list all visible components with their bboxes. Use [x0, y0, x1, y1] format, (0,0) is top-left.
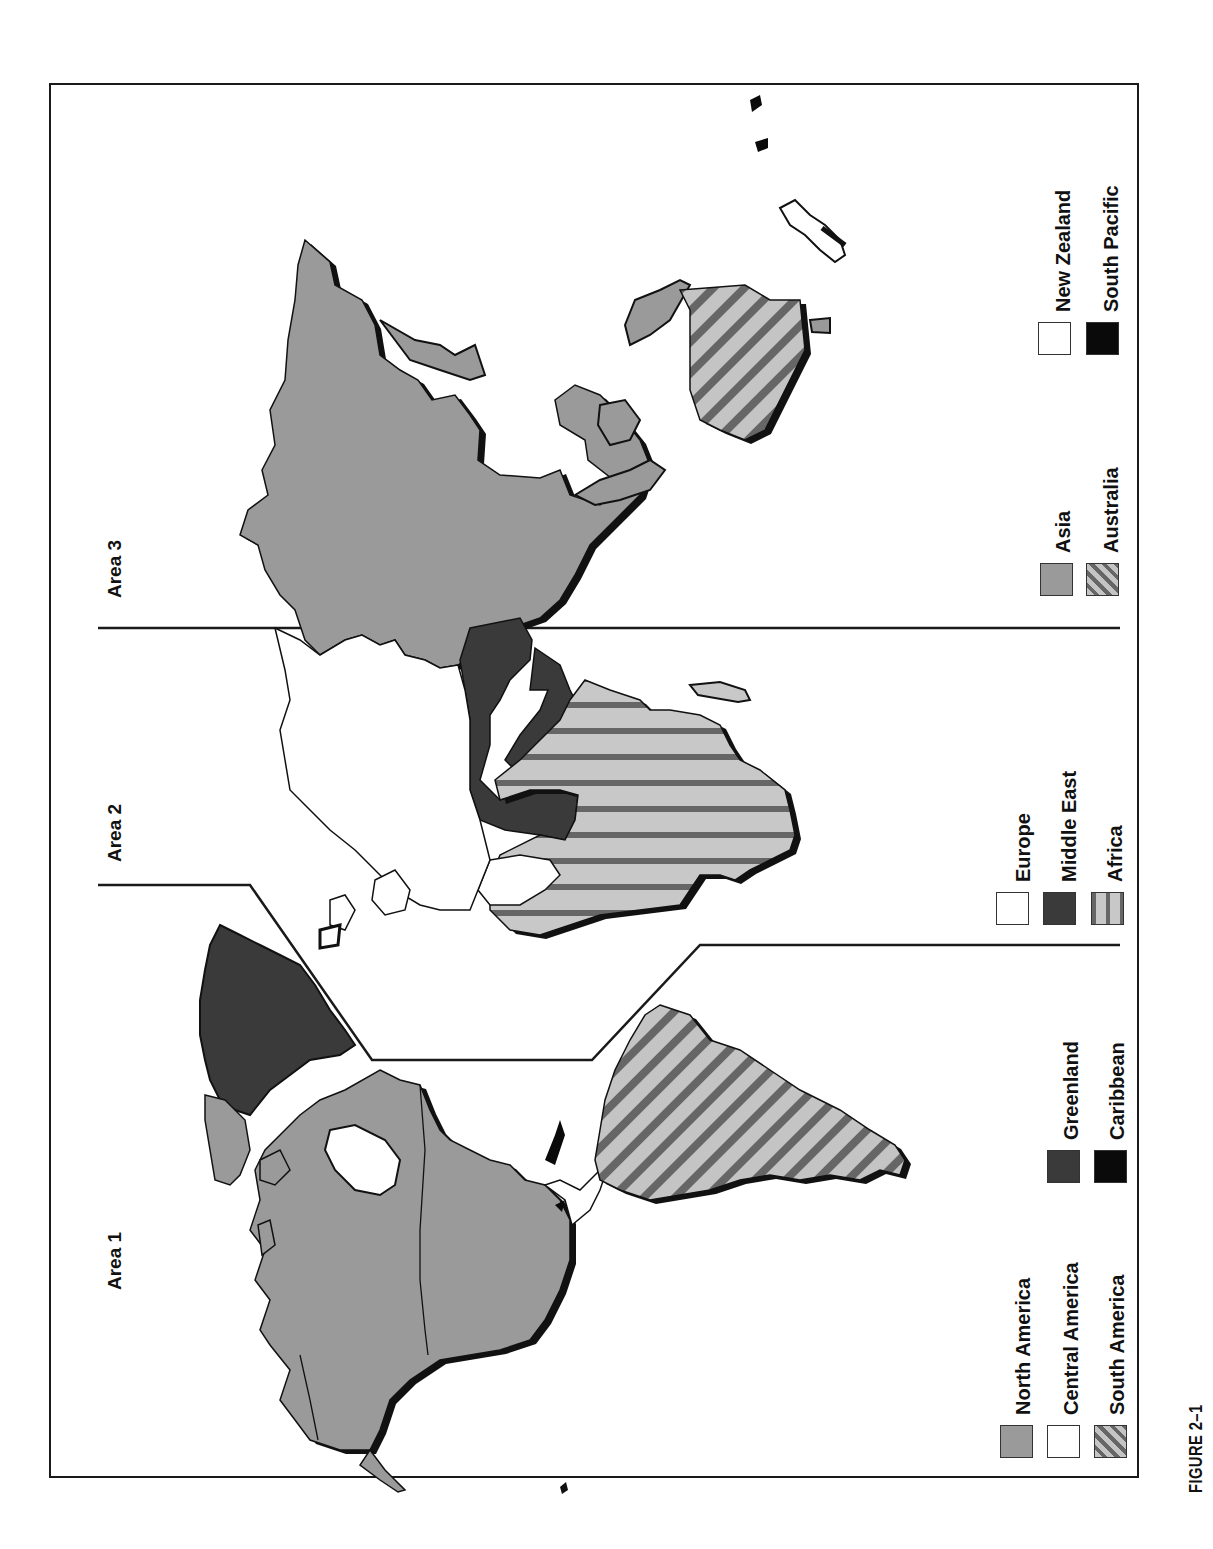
area-label-3: Area 3 — [104, 540, 126, 598]
legend-label-asia: Asia — [1052, 511, 1075, 553]
area-label-1: Area 1 — [104, 1232, 126, 1290]
legend-swatch-caribbean — [1094, 1150, 1127, 1183]
region-australia — [680, 285, 811, 444]
legend-swatch-north-america — [1000, 1425, 1033, 1458]
region-greenland — [200, 925, 355, 1115]
region-new-zealand — [780, 200, 845, 262]
legend-label-africa: Africa — [1104, 825, 1127, 882]
legend-swatch-middle-east — [1043, 892, 1076, 925]
legend-label-middle-east: Middle East — [1058, 771, 1081, 882]
legend-label-north-america: North America — [1012, 1278, 1035, 1415]
legend-swatch-south-pacific — [1086, 322, 1119, 355]
legend-swatch-new-zealand — [1038, 322, 1071, 355]
region-south-america — [595, 1005, 911, 1204]
legend-label-europe: Europe — [1012, 813, 1035, 882]
legend-label-caribbean: Caribbean — [1106, 1042, 1129, 1140]
legend-label-greenland: Greenland — [1060, 1041, 1083, 1140]
legend-swatch-central-america — [1047, 1425, 1080, 1458]
region-north-america — [205, 1070, 576, 1492]
legend-label-central-america: Central America — [1060, 1262, 1083, 1415]
legend-swatch-australia — [1086, 563, 1119, 596]
legend-swatch-greenland — [1047, 1150, 1080, 1183]
legend-label-australia: Australia — [1100, 467, 1123, 553]
legend-swatch-asia — [1040, 563, 1073, 596]
legend-swatch-south-america — [1094, 1425, 1127, 1458]
legend-swatch-europe — [996, 892, 1029, 925]
area-label-2: Area 2 — [104, 804, 126, 862]
island-speck — [560, 1482, 568, 1494]
legend-swatch-africa — [1091, 892, 1124, 925]
region-europe — [275, 628, 490, 948]
legend-label-south-pacific: South Pacific — [1100, 185, 1123, 312]
legend-label-south-america: South America — [1106, 1275, 1129, 1415]
legend-label-new-zealand: New Zealand — [1052, 190, 1075, 312]
figure-caption: FIGURE 2–1 — [1186, 1404, 1207, 1493]
region-south-pacific — [750, 95, 768, 152]
